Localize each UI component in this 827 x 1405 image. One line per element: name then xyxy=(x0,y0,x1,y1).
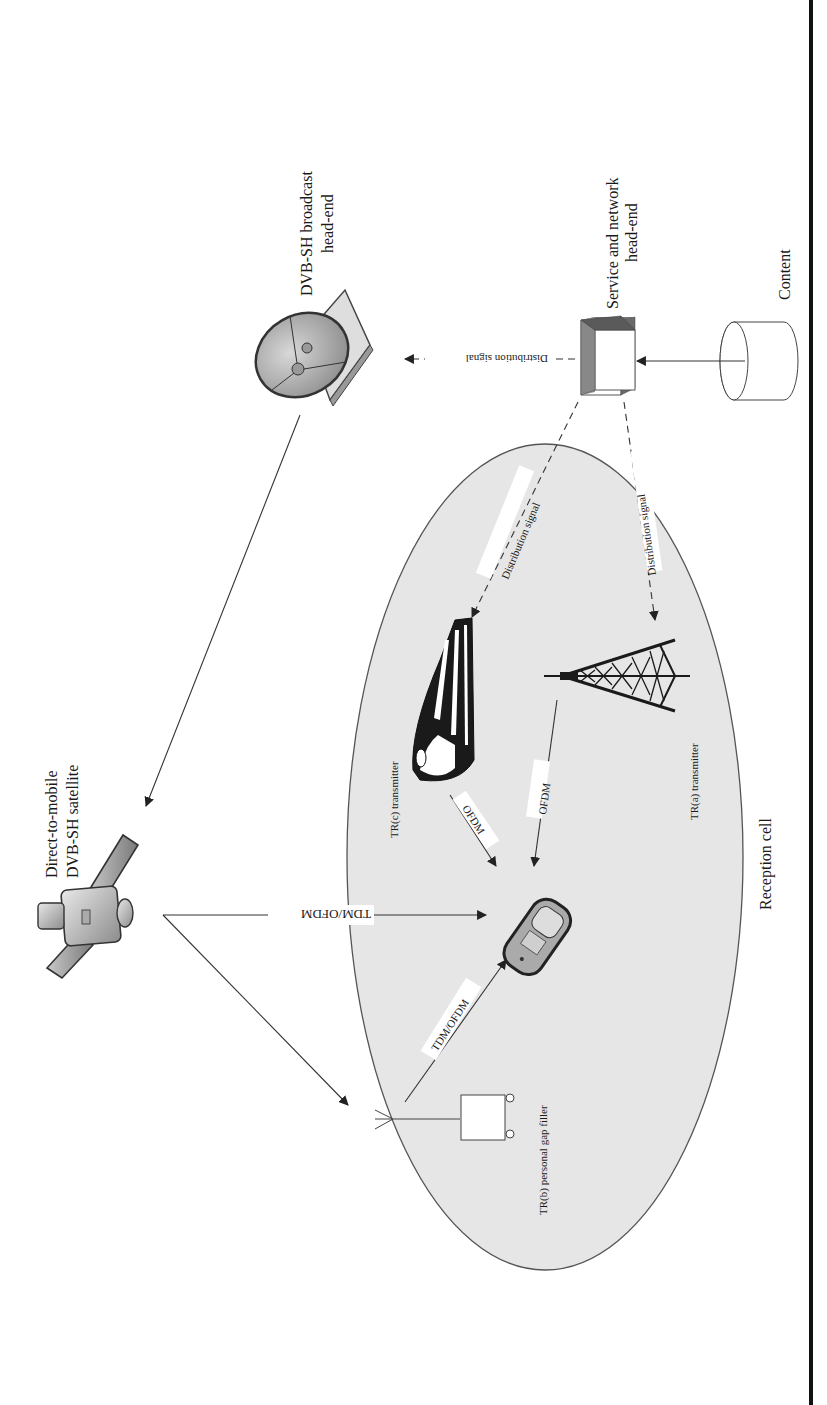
tr-c-label: TR(c) transmitter xyxy=(388,761,401,838)
satellite-to-gapfiller-link xyxy=(163,915,348,1105)
satellite-to-phone-label: TDM/OFDM xyxy=(300,907,371,922)
server-cube-icon xyxy=(581,316,635,395)
satellite-dish-icon xyxy=(240,290,373,414)
broadcast-headend-label-line1: DVB-SH broadcast xyxy=(298,171,315,296)
distribution-label-dish: Distribution signal xyxy=(466,353,548,365)
service-headend-label-line2: head-end xyxy=(623,203,640,262)
uplink-dish-to-satellite xyxy=(146,415,300,806)
tr-a-label: TR(a) transmitter xyxy=(688,743,701,820)
reception-cell-label: Reception cell xyxy=(757,817,775,910)
dvb-sh-architecture-diagram: Reception cell DVB-SH broadcast head-end… xyxy=(0,0,827,1405)
broadcast-headend-label-line2: head-end xyxy=(319,194,336,253)
satellite-label-line1: Direct-to-mobile xyxy=(43,770,60,878)
service-headend-label-line1: Service and network xyxy=(604,177,621,309)
content-label: Content xyxy=(776,249,793,300)
page-right-rule xyxy=(809,0,813,1405)
tr-b-label: TR(b) personal gap filler xyxy=(537,1105,550,1215)
satellite-label-line2: DVB-SH satellite xyxy=(64,765,81,878)
